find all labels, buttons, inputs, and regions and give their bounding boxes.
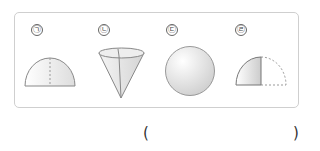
option-label-1: ㉠ bbox=[31, 24, 43, 36]
option-label-2: ㉡ bbox=[98, 24, 110, 36]
option-label-4: ㉣ bbox=[235, 24, 247, 36]
hemisphere-figure bbox=[22, 52, 78, 90]
cone-figure bbox=[96, 46, 148, 102]
sphere-figure bbox=[164, 44, 216, 98]
answer-close-paren: ) bbox=[293, 124, 299, 142]
option-label-3: ㉢ bbox=[166, 24, 178, 36]
answer-open-paren: ( bbox=[143, 124, 149, 142]
answer-blank[interactable] bbox=[152, 122, 290, 142]
quarter-sphere-figure bbox=[233, 54, 289, 90]
